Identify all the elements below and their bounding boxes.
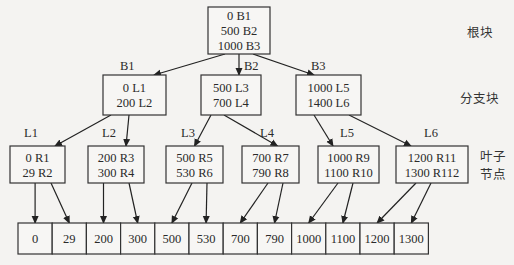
leaf-node-l4-entry: 790 R8 xyxy=(252,166,288,180)
data-row: 0292003005005307007901000110012001300 xyxy=(18,223,428,254)
data-cell-value: 29 xyxy=(63,232,76,246)
pointer-label-l6: L6 xyxy=(424,126,438,140)
pointer-label-b1: B1 xyxy=(120,59,135,73)
edge-b1-to-l2 xyxy=(126,115,129,146)
leaf-node-l2-entry: 300 R4 xyxy=(98,166,135,180)
leaf-node-l1: 0 R129 R2 xyxy=(10,146,65,183)
leaf-node-l5-entry: 1100 R10 xyxy=(324,166,373,180)
edge-l5-to-cell-9 xyxy=(343,183,353,223)
edge-root-to-b3 xyxy=(253,54,314,75)
data-cell-value: 1000 xyxy=(296,232,321,246)
leaf-node-l3-entry: 500 R5 xyxy=(176,151,212,165)
data-cell-value: 700 xyxy=(231,232,250,246)
data-cell: 29 xyxy=(52,223,86,254)
edge-l6-to-cell-11 xyxy=(411,183,431,223)
branch-node-b3-entry: 1400 L6 xyxy=(307,96,349,110)
leaf-node-l1-entry: 29 R2 xyxy=(22,166,52,180)
pointer-label-l3: L3 xyxy=(181,126,195,140)
data-cell: 300 xyxy=(121,223,155,254)
data-cell: 1100 xyxy=(326,223,360,254)
pointer-label-l1: L1 xyxy=(24,126,38,140)
root-node-entry: 500 B2 xyxy=(221,24,257,38)
edge-l1-to-cell-1 xyxy=(51,183,69,223)
data-cell-value: 790 xyxy=(265,232,284,246)
leaf-node-l2-entry: 200 R3 xyxy=(98,151,134,165)
pointer-label-l2: L2 xyxy=(102,126,116,140)
leaf-node-l3: 500 R5530 R6 xyxy=(166,146,223,183)
data-cell-value: 1200 xyxy=(365,232,390,246)
level-label-leaf-line1: 叶子 xyxy=(480,150,506,164)
root-node-entry: 0 B1 xyxy=(227,9,251,23)
nodes: 0 B1500 B21000 B30 L1200 L2500 L3700 L41… xyxy=(10,7,468,183)
data-cell: 1000 xyxy=(292,223,326,254)
data-cell-value: 200 xyxy=(94,232,113,246)
data-cell: 790 xyxy=(257,223,291,254)
pointer-label-b2: B2 xyxy=(244,59,259,73)
pointer-label-b3: B3 xyxy=(311,59,326,73)
edge-l6-to-cell-10 xyxy=(377,183,416,223)
data-cell: 500 xyxy=(155,223,189,254)
leaf-node-l6-entry: 1200 R11 xyxy=(408,151,457,165)
root-node-entry: 1000 B3 xyxy=(218,39,261,53)
edge-l4-to-cell-7 xyxy=(275,183,284,223)
edge-l5-to-cell-8 xyxy=(309,183,338,223)
data-cell: 1300 xyxy=(394,223,428,254)
data-cell: 1200 xyxy=(360,223,394,254)
data-cell: 700 xyxy=(223,223,257,254)
edge-l3-to-cell-4 xyxy=(172,183,192,223)
leaf-node-l4-entry: 700 R7 xyxy=(252,151,288,165)
branch-node-b3: 1000 L51400 L6 xyxy=(296,75,361,115)
level-label-branch: 分支块 xyxy=(460,92,499,106)
leaf-node-l1-entry: 0 R1 xyxy=(26,151,50,165)
edge-l4-to-cell-6 xyxy=(240,183,268,223)
edge-b3-to-l6 xyxy=(349,115,411,146)
leaf-node-l3-entry: 530 R6 xyxy=(176,166,212,180)
branch-node-b2-entry: 500 L3 xyxy=(213,81,249,95)
branch-node-b2-entry: 700 L4 xyxy=(213,96,250,110)
btree-index-diagram: B1B2B3L1L2L3L4L5L6 0 B1500 B21000 B30 L1… xyxy=(0,0,514,265)
leaf-node-l4: 700 R7790 R8 xyxy=(242,146,299,183)
branch-node-b1-entry: 200 L2 xyxy=(117,96,153,110)
leaf-node-l5-entry: 1000 R9 xyxy=(327,151,370,165)
data-cell-value: 1100 xyxy=(331,232,356,246)
edge-l2-to-cell-3 xyxy=(129,183,138,223)
data-cell: 200 xyxy=(86,223,120,254)
leaf-node-l2: 200 R3300 R4 xyxy=(88,146,144,183)
level-label-root: 根块 xyxy=(467,26,493,40)
data-cell-value: 1300 xyxy=(399,232,424,246)
edge-l3-to-cell-5 xyxy=(206,183,207,223)
data-cell-value: 500 xyxy=(163,232,182,246)
edge-b2-to-l3 xyxy=(195,115,212,146)
edge-root-to-b1 xyxy=(154,54,225,75)
level-label-leaf-line2: 节点 xyxy=(480,168,506,182)
data-cell-value: 0 xyxy=(32,232,38,246)
data-cell-value: 300 xyxy=(128,232,147,246)
pointer-label-l5: L5 xyxy=(340,126,354,140)
leaf-node-l6: 1200 R111300 R112 xyxy=(396,146,468,183)
data-cell: 0 xyxy=(18,223,52,254)
pointer-label-l4: L4 xyxy=(260,126,275,140)
edge-b3-to-l5 xyxy=(314,115,333,146)
leaf-node-l6-entry: 1300 R112 xyxy=(405,166,460,180)
branch-node-b1: 0 L1200 L2 xyxy=(103,75,166,115)
leaf-node-l5: 1000 R91100 R10 xyxy=(318,146,379,183)
branch-node-b1-entry: 0 L1 xyxy=(123,81,146,95)
root-node: 0 B1500 B21000 B3 xyxy=(208,7,270,54)
branch-node-b3-entry: 1000 L5 xyxy=(307,81,349,95)
data-cell: 530 xyxy=(189,223,223,254)
branch-node-b2: 500 L3700 L4 xyxy=(201,75,261,115)
data-cell-value: 530 xyxy=(197,232,216,246)
